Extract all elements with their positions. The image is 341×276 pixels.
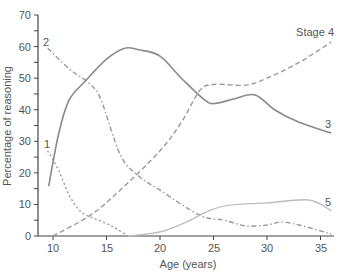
y-tick-label: 50 [19,72,31,84]
y-tick-label: 60 [19,41,31,53]
series-label-1: 1 [44,138,50,150]
series-label-5: 5 [325,196,331,208]
y-tick-label: 0 [25,230,31,242]
x-tick-label: 20 [154,242,166,254]
y-tick-label: 30 [19,135,31,147]
series-label-stage-4: Stage 4 [296,26,334,38]
line-chart: 0 10 20 30 40 50 60 70 10 15 20 25 30 35… [0,0,341,276]
x-tick-label: 35 [315,242,327,254]
y-tick-label: 20 [19,167,31,179]
x-tick-label: 15 [101,242,113,254]
x-ticks [53,236,321,240]
x-tick-label: 30 [261,242,273,254]
series-label-2: 2 [43,36,49,48]
series-label-3: 3 [325,118,331,130]
y-tick-label: 40 [19,104,31,116]
x-tick-label: 10 [47,242,59,254]
y-tick-label: 70 [19,9,31,21]
x-axis-title: Age (years) [160,258,217,270]
x-tick-label: 25 [208,242,220,254]
series-line-5 [128,200,331,236]
series-layer [48,42,332,236]
y-axis-title: Percentage of reasoning [1,66,13,186]
y-tick-label: 10 [19,198,31,210]
